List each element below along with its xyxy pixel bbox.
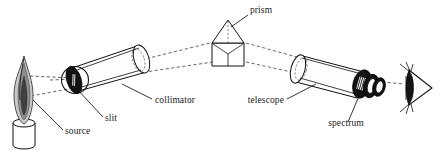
source-assembly <box>13 56 35 149</box>
leader-slit <box>76 88 103 117</box>
ray-source-to-slit-lower <box>31 88 74 96</box>
label-spectrum: spectrum <box>328 118 364 128</box>
leader-source <box>33 100 63 130</box>
eye-icon <box>400 62 432 114</box>
diagram-canvas: prism collimator telescope slit source s… <box>0 0 441 155</box>
eye-pupil <box>406 71 414 104</box>
leader-collimator <box>122 84 152 99</box>
eye-lashes-bottom <box>400 104 413 114</box>
label-prism: prism <box>250 5 273 15</box>
telescope-assembly <box>287 53 387 100</box>
eye-lashes-top <box>400 62 413 72</box>
leader-prism <box>231 15 248 27</box>
spectroscope-figure: prism collimator telescope slit source s… <box>0 0 441 155</box>
label-collimator: collimator <box>155 95 196 105</box>
leader-telescope <box>287 84 316 99</box>
prism-top-left-face <box>212 20 244 43</box>
label-telescope: telescope <box>248 95 284 105</box>
label-slit: slit <box>105 113 117 123</box>
collimator-assembly <box>62 43 153 96</box>
ray-source-to-slit-upper <box>30 76 71 78</box>
prism-assembly <box>212 20 244 66</box>
label-source: source <box>65 126 90 136</box>
